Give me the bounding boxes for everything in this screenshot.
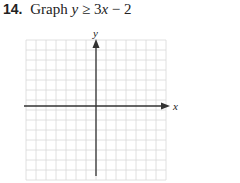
y-axis-label: y — [92, 27, 98, 39]
x-axis-arrow-icon — [161, 103, 170, 110]
x-axis-label: x — [172, 100, 178, 112]
coordinate-grid: x y — [0, 0, 240, 183]
y-axis — [93, 39, 100, 176]
